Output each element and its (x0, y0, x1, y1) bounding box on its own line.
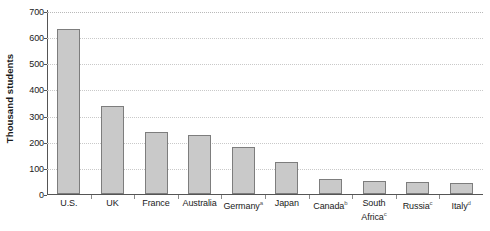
y-axis-tick-label: 0 (18, 190, 44, 200)
x-axis-tick-label: France (134, 198, 178, 209)
y-axis-tick-label: 400 (18, 85, 44, 95)
y-axis-tick-mark (44, 169, 47, 170)
x-axis-tick-label: Australia (178, 198, 222, 209)
gridline (47, 64, 483, 65)
gridline (47, 90, 483, 91)
bar (319, 179, 342, 194)
footnote-marker: c (430, 200, 433, 206)
y-axis-tick-mark (44, 38, 47, 39)
gridline (47, 12, 483, 13)
x-axis-tick-label: Russiac (396, 198, 440, 212)
x-axis-tick-label: Italyd (439, 198, 483, 212)
bar (450, 183, 473, 194)
bar (57, 29, 80, 194)
x-axis-tick-label: South Africac (352, 198, 396, 222)
plot-area (47, 11, 483, 195)
y-axis-tick-mark (44, 64, 47, 65)
y-axis-tick-mark (44, 12, 47, 13)
gridline (47, 38, 483, 39)
y-axis-tick-label: 700 (18, 7, 44, 17)
y-axis-tick-label: 100 (18, 164, 44, 174)
y-axis-tick-mark (44, 143, 47, 144)
x-axis-tick-labels: U.S.UKFranceAustraliaGermanyaJapanCanada… (47, 198, 483, 231)
footnote-marker: c (384, 211, 387, 217)
y-axis-tick-labels: 7006005004003002001000 (14, 0, 44, 196)
bar (275, 162, 298, 194)
y-axis-tick-label: 300 (18, 112, 44, 122)
footnote-marker: a (260, 200, 263, 206)
x-axis-tick-label: Germanya (221, 198, 265, 212)
bar-chart: Thousand students 7006005004003002001000… (0, 0, 490, 231)
bar (232, 147, 255, 194)
footnote-marker: b (344, 200, 347, 206)
x-axis-tick-label: Japan (265, 198, 309, 209)
y-axis-tick-label: 500 (18, 59, 44, 69)
y-axis-tick-mark (44, 117, 47, 118)
bar (406, 182, 429, 194)
footnote-marker: d (468, 200, 471, 206)
bar (145, 132, 168, 194)
x-axis-tick-label: UK (91, 198, 135, 209)
y-axis-tick-label: 200 (18, 138, 44, 148)
y-axis-tick-mark (44, 90, 47, 91)
bar (188, 135, 211, 194)
bar (101, 106, 124, 194)
bar (363, 181, 386, 194)
y-axis-tick-label: 600 (18, 33, 44, 43)
x-axis-tick-label: Canadab (309, 198, 353, 212)
x-axis-tick-label: U.S. (47, 198, 91, 209)
y-axis-tick-mark (44, 195, 47, 196)
